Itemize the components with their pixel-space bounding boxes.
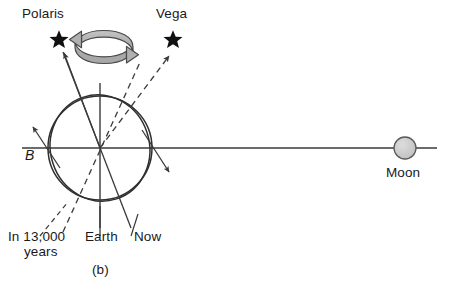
future-label-line2: years: [24, 244, 58, 259]
tilt-marker-label: B: [25, 148, 34, 163]
polaris-label: Polaris: [22, 6, 64, 21]
vega-star-icon: [163, 30, 182, 48]
precession-figure: Polaris Vega B In 13,000 years Earth Now…: [0, 0, 449, 293]
panel-label: (b): [92, 262, 109, 277]
polaris-pointing-arrow: [64, 53, 100, 148]
vega-pointing-arrow: [100, 56, 169, 148]
bulge-force-arrow-right: [142, 130, 169, 172]
now-label: Now: [134, 229, 161, 244]
earth-label: Earth: [85, 229, 118, 244]
future-label-line1: In 13,000: [8, 229, 65, 244]
polaris-star-icon: [49, 30, 68, 48]
figure-canvas: [0, 0, 449, 293]
vega-label: Vega: [156, 6, 187, 21]
precession-arrow-icon: [70, 31, 139, 64]
moon-icon: [394, 137, 416, 159]
moon-label: Moon: [386, 165, 420, 180]
